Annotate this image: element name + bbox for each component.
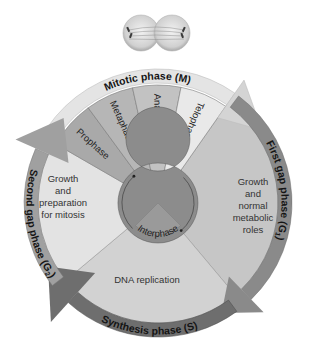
interphase-arrowhead-icon <box>180 229 183 232</box>
interphase-arrowhead-icon <box>133 175 136 178</box>
s-description: DNA replication <box>114 274 179 285</box>
cell-cycle-svg: Mitotic phase (M)First gap phase (G1)Syn… <box>0 0 314 362</box>
cell-cycle-diagram: Mitotic phase (M)First gap phase (G1)Syn… <box>0 0 314 362</box>
dividing-cell-illustration <box>123 15 190 51</box>
